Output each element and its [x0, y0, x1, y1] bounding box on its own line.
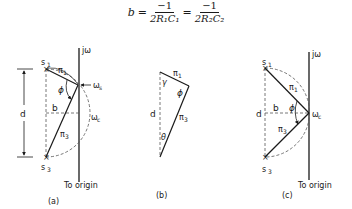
d-label-c: d [256, 109, 262, 119]
s3-marker-a: × [43, 153, 50, 162]
circle-arc-c [265, 68, 310, 157]
s3-marker-c: × [262, 153, 269, 162]
caption-c: (c) [282, 191, 293, 200]
pi3-vector-a [46, 85, 78, 157]
d-label-a: d [20, 109, 26, 119]
theta-label-b: θ [161, 133, 166, 142]
jw-label-c: jω [311, 50, 321, 59]
d-label-b: d [150, 109, 156, 119]
caption-a: (a) [48, 197, 59, 206]
pi3-vector-c [265, 113, 309, 157]
s1-sub-c: 1 [268, 61, 272, 68]
s3-label-c: s [262, 165, 266, 174]
omega-c-sub-a: c [97, 116, 100, 123]
s3-sub-c: 3 [268, 168, 272, 175]
pi3-sub-c: 3 [283, 128, 287, 135]
s3-label-a: s [41, 163, 45, 172]
to-origin-a: To origin [63, 181, 98, 190]
s3-sub-a: 3 [47, 166, 51, 173]
pi1-sub-a: 1 [63, 69, 67, 76]
jw-label-a: jω [81, 46, 91, 55]
phi-label-a: ϕ [58, 85, 64, 95]
s1-label-a: s [41, 58, 45, 67]
pi3-sub-a: 3 [65, 133, 69, 140]
phi-label-b: ϕ [177, 88, 183, 98]
pi1-sub-b: 1 [178, 72, 182, 79]
pi1-vector-c [265, 68, 309, 113]
pi3-sub-b: 3 [184, 116, 188, 123]
omega-s-sub-a: s [99, 84, 102, 91]
caption-b: (b) [156, 191, 167, 200]
s1-label-c: s [262, 58, 266, 67]
phi-label-c: ϕ [289, 103, 295, 113]
s1-sub-a: 1 [47, 61, 51, 68]
b-label-a: b [52, 103, 58, 113]
b-label-c: b [273, 103, 279, 113]
gamma-label-b: γ [162, 78, 168, 87]
panel-c: jω ϕ × × s 1 s 3 π 1 π 3 b d ω c To orig… [256, 50, 332, 200]
to-origin-c: To origin [297, 181, 332, 190]
pi1-sub-c: 1 [294, 86, 298, 93]
omega-c-sub-c: c [318, 113, 321, 120]
diagram-canvas: jω ϕ × × s 1 s 3 π 1 π 3 b ω s ω c [0, 0, 352, 209]
phi-arc-c [295, 101, 298, 124]
phi-arc-a [66, 80, 71, 99]
panel-b: π 1 γ ϕ π 3 d θ (b) [150, 69, 189, 200]
panel-a: jω ϕ × × s 1 s 3 π 1 π 3 b ω s ω c [17, 46, 102, 206]
